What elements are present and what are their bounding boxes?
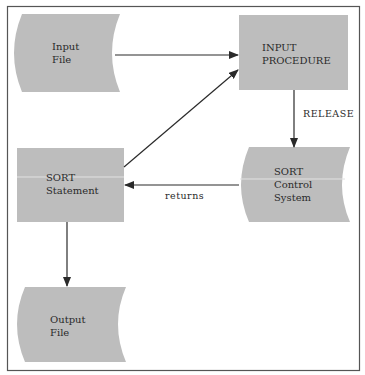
node-label-line: Output xyxy=(50,314,86,325)
edge-label-release: RELEASE xyxy=(303,108,354,119)
node-sort-control-system: SORT Control System xyxy=(240,147,350,222)
file-shape-icon xyxy=(14,14,120,92)
node-label-line: Control xyxy=(274,179,312,190)
node-sort-statement: SORT Statement xyxy=(17,148,124,222)
node-output-file: Output File xyxy=(17,287,126,362)
node-label-line: File xyxy=(52,54,71,65)
edge-label-returns: returns xyxy=(165,190,204,201)
node-label-line: SORT xyxy=(46,172,75,183)
node-input-procedure: INPUT PROCEDURE xyxy=(239,15,348,90)
node-label-line: Statement xyxy=(46,185,99,196)
sort-flow-diagram: Input File INPUT PROCEDURE SORT Control … xyxy=(0,0,365,375)
node-label-line: System xyxy=(274,192,312,203)
node-label-line: Input xyxy=(52,41,79,52)
node-label-line: File xyxy=(50,327,69,338)
node-label-line: INPUT xyxy=(262,42,297,53)
node-label-line: SORT xyxy=(274,166,303,177)
node-input-file: Input File xyxy=(14,14,120,92)
arrow-sort-statement-to-input-procedure xyxy=(124,70,238,167)
node-label-line: PROCEDURE xyxy=(262,55,331,66)
